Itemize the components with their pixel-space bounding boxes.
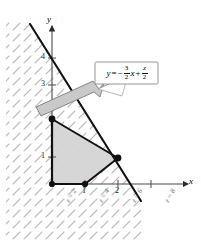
y-tick-label-1: 1 [41, 151, 45, 160]
eq-frac2-numerator: z [143, 65, 146, 72]
y-axis-label: y [47, 14, 51, 24]
y-tick-label-3: 3 [41, 79, 45, 88]
figure-canvas [0, 0, 201, 245]
hatched-halfplane [0, 0, 201, 245]
vertex-optimum [115, 155, 122, 162]
y-tick-label-4: 4 [41, 52, 45, 61]
vertex-origin [49, 181, 55, 187]
equation-callout-text: y = − 3 2 x + z 2 [98, 64, 156, 82]
eq-equals: = [111, 68, 116, 78]
x-tick-label-2: 2 [115, 186, 119, 195]
eq-var-x: x [131, 68, 135, 78]
eq-frac1-numerator: 3 [125, 65, 129, 72]
math-figure: y = − 3 2 x + z 2 x y 1 2 1 3 4 z = 2 z … [0, 0, 201, 245]
eq-fraction-three-halves: 3 2 [124, 65, 130, 80]
eq-fraction-z-halves: z 2 [142, 65, 148, 80]
eq-frac2-denominator: 2 [143, 74, 147, 81]
x-axis-label: x [189, 176, 193, 186]
eq-minus: − [117, 68, 122, 78]
eq-lhs: y [106, 68, 110, 78]
eq-frac1-denominator: 2 [125, 74, 129, 81]
vertex-top [49, 116, 56, 123]
eq-plus: + [136, 68, 141, 78]
x-tick-label-1: 1 [82, 186, 86, 195]
